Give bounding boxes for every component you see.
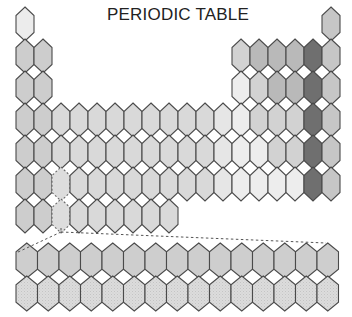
element-cell-r3-c13: [232, 71, 250, 105]
element-cell-r5-c18: [322, 135, 340, 169]
actinides-cell-3: [59, 276, 81, 311]
element-cell-r5-c5: [88, 135, 106, 169]
lanthanides-cell-5: [102, 243, 124, 278]
element-cell-r3-c18: [322, 71, 340, 105]
element-cell-r6-c5: [88, 167, 106, 201]
element-cell-r5-c8: [142, 135, 160, 169]
element-cell-r3-c2: [34, 71, 52, 105]
element-cell-r6-c16: [286, 167, 304, 201]
element-cell-r7-c6: [106, 199, 124, 233]
lanthanides-cell-4: [81, 243, 103, 278]
actinides-cell-13: [274, 276, 296, 311]
element-cell-r4-c11: [196, 103, 214, 137]
element-cell-r4-c5: [88, 103, 106, 137]
lanthanides-cell-13: [274, 243, 296, 278]
element-cell-r6-c10: [178, 167, 196, 201]
element-cell-r4-c7: [124, 103, 142, 137]
element-cell-r4-c1: [16, 103, 34, 137]
element-cell-r6-c8: [142, 167, 160, 201]
lanthanides-cell-11: [231, 243, 253, 278]
element-cell-r4-c10: [178, 103, 196, 137]
element-cell-r7-c9: [160, 199, 178, 233]
element-cell-r6-c18: [322, 167, 340, 201]
element-cell-r1-c18: [322, 7, 340, 41]
element-cell-r6-c14: [250, 167, 268, 201]
element-cell-r6-c17: [304, 167, 322, 201]
element-cell-r4-c16: [286, 103, 304, 137]
element-cell-r5-c17: [304, 135, 322, 169]
actinides-cell-1: [16, 276, 38, 311]
element-cell-r5-c3: [52, 135, 70, 169]
element-cell-r4-c18: [322, 103, 340, 137]
lanthanides-cell-9: [188, 243, 210, 278]
element-cell-r5-c16: [286, 135, 304, 169]
actinides-cell-6: [124, 276, 146, 311]
element-cell-r6-c9: [160, 167, 178, 201]
element-cell-r4-c9: [160, 103, 178, 137]
element-cell-r2-c14: [250, 39, 268, 73]
element-cell-r2-c15: [268, 39, 286, 73]
lanthanides-cell-1: [16, 243, 38, 278]
element-cell-r4-c13: [232, 103, 250, 137]
element-cell-r5-c15: [268, 135, 286, 169]
element-cell-r7-c2: [34, 199, 52, 233]
actinides-cell-14: [296, 276, 318, 311]
element-cell-r4-c3: [52, 103, 70, 137]
element-cell-r4-c2: [34, 103, 52, 137]
element-cell-r3-c16: [286, 71, 304, 105]
element-cell-r7-c3: [52, 199, 70, 233]
actinides-cell-9: [188, 276, 210, 311]
element-cell-r4-c6: [106, 103, 124, 137]
element-cell-r6-c15: [268, 167, 286, 201]
element-cell-r7-c1: [16, 199, 34, 233]
f-block-grid: [16, 243, 339, 311]
lanthanides-cell-14: [296, 243, 318, 278]
lanthanides-cell-2: [38, 243, 60, 278]
element-cell-r5-c7: [124, 135, 142, 169]
element-cell-r6-c13: [232, 167, 250, 201]
actinides-cell-7: [145, 276, 167, 311]
element-cell-r4-c17: [304, 103, 322, 137]
element-cell-r5-c14: [250, 135, 268, 169]
element-cell-r7-c5: [88, 199, 106, 233]
lanthanides-cell-10: [210, 243, 232, 278]
actinides-cell-2: [38, 276, 60, 311]
element-cell-r4-c4: [70, 103, 88, 137]
element-cell-r5-c9: [160, 135, 178, 169]
element-cell-r2-c1: [16, 39, 34, 73]
element-cell-r5-c1: [16, 135, 34, 169]
element-cell-r6-c3: [52, 167, 70, 201]
lanthanides-cell-6: [124, 243, 146, 278]
periodic-table-diagram: [0, 0, 352, 317]
lanthanides-cell-12: [253, 243, 275, 278]
element-cell-r4-c15: [268, 103, 286, 137]
actinides-cell-4: [81, 276, 103, 311]
element-cell-r2-c2: [34, 39, 52, 73]
element-cell-r5-c10: [178, 135, 196, 169]
element-cell-r6-c6: [106, 167, 124, 201]
element-cell-r4-c12: [214, 103, 232, 137]
connector-line-right: [61, 232, 326, 243]
element-cell-r6-c12: [214, 167, 232, 201]
element-cell-r6-c1: [16, 167, 34, 201]
lanthanides-cell-3: [59, 243, 81, 278]
element-cell-r4-c14: [250, 103, 268, 137]
element-cell-r1-c1: [16, 7, 34, 41]
element-cell-r5-c13: [232, 135, 250, 169]
element-cell-r7-c4: [70, 199, 88, 233]
main-grid: [16, 7, 340, 233]
element-cell-r2-c13: [232, 39, 250, 73]
element-cell-r5-c2: [34, 135, 52, 169]
element-cell-r3-c17: [304, 71, 322, 105]
actinides-cell-5: [102, 276, 124, 311]
actinides-cell-15: [317, 276, 339, 311]
element-cell-r2-c16: [286, 39, 304, 73]
element-cell-r5-c6: [106, 135, 124, 169]
element-cell-r3-c1: [16, 71, 34, 105]
element-cell-r3-c14: [250, 71, 268, 105]
actinides-cell-11: [231, 276, 253, 311]
element-cell-r5-c12: [214, 135, 232, 169]
element-cell-r7-c8: [142, 199, 160, 233]
element-cell-r2-c18: [322, 39, 340, 73]
element-cell-r2-c17: [304, 39, 322, 73]
